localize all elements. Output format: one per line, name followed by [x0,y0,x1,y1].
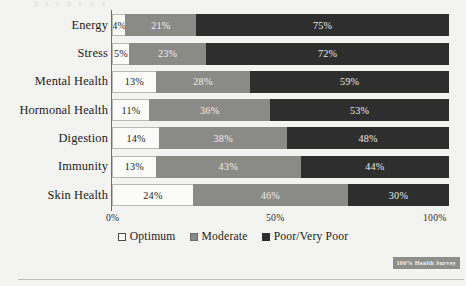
stacked-bar: 24%46%30% [112,184,449,206]
bar-value-label: 11% [122,105,141,116]
bar-value-label: 59% [340,76,359,87]
watermark-badge: 100% Health Survey [393,257,461,269]
legend-item-poor[interactable]: Poor/Very Poor [262,230,349,243]
stacked-bar: 14%38%48% [112,127,449,149]
bar-segment-moderate[interactable]: 36% [149,99,270,121]
category-label-energy: Energy [0,18,112,33]
category-label-hormonal-health: Hormonal Health [0,103,112,118]
bar-value-label: 23% [158,48,177,59]
legend-item-moderate[interactable]: Moderate [190,230,248,243]
chart-row: Immunity13%43%44% [0,153,466,180]
bar-segment-optimum[interactable]: 11% [112,99,149,121]
bar-value-label: 24% [143,190,162,201]
bar-value-label: 43% [219,161,238,172]
legend-item-optimum[interactable]: Optimum [118,230,176,243]
bar-segment-moderate[interactable]: 43% [156,156,301,178]
bar-value-label: 75% [313,20,332,31]
bar-value-label: 36% [200,105,219,116]
bar-value-label: 13% [125,76,144,87]
bar-segment-optimum[interactable]: 24% [112,184,193,206]
category-label-stress: Stress [0,46,112,61]
bar-segment-moderate[interactable]: 28% [156,71,250,93]
bar-value-label: 21% [151,20,170,31]
x-tick-50: 50% [266,212,285,223]
bar-segment-optimum[interactable]: 4% [112,14,125,36]
bar-segment-poor[interactable]: 75% [196,14,449,36]
stacked-bar: 13%28%59% [112,71,449,93]
bar-value-label: 30% [389,190,408,201]
bar-value-label: 5% [114,48,128,59]
legend-swatch-poor-icon [262,233,270,241]
x-axis-ticks: 0% 50% 100% [0,212,466,226]
bar-segment-moderate[interactable]: 46% [193,184,348,206]
stacked-bar-chart: Energy4%21%75%Stress5%23%72%Mental Healt… [0,12,466,212]
chart-row: Mental Health13%28%59% [0,69,466,96]
bottom-divider [18,279,464,280]
x-tick-0: 0% [106,212,119,223]
bar-segment-optimum[interactable]: 14% [112,127,159,149]
stacked-bar: 11%36%53% [112,99,449,121]
legend-swatch-optimum-icon [118,233,126,241]
bar-value-label: 44% [365,161,384,172]
top-cutoff-text: p t y p y g y [0,0,466,7]
chart-row: Digestion14%38%48% [0,125,466,152]
stacked-bar: 4%21%75% [112,14,449,36]
legend-swatch-moderate-icon [190,233,198,241]
bar-segment-moderate[interactable]: 23% [129,43,207,65]
bar-segment-poor[interactable]: 53% [270,99,449,121]
bar-segment-poor[interactable]: 72% [206,43,449,65]
bar-segment-poor[interactable]: 48% [287,127,449,149]
chart-legend: Optimum Moderate Poor/Very Poor [0,230,466,243]
chart-rows: Energy4%21%75%Stress5%23%72%Mental Healt… [0,12,466,212]
bar-segment-poor[interactable]: 59% [250,71,449,93]
chart-row: Energy4%21%75% [0,12,466,39]
x-tick-100: 100% [423,212,447,223]
bar-value-label: 28% [193,76,212,87]
category-label-immunity: Immunity [0,159,112,174]
bar-value-label: 53% [350,105,369,116]
bar-segment-poor[interactable]: 30% [348,184,449,206]
chart-row: Hormonal Health11%36%53% [0,97,466,124]
bar-value-label: 14% [126,133,145,144]
category-label-skin-health: Skin Health [0,188,112,203]
category-label-mental-health: Mental Health [0,74,112,89]
stacked-bar: 13%43%44% [112,156,449,178]
category-label-digestion: Digestion [0,131,112,146]
bar-segment-poor[interactable]: 44% [301,156,449,178]
bar-segment-optimum[interactable]: 13% [112,156,156,178]
legend-label-moderate: Moderate [202,230,248,243]
bar-segment-optimum[interactable]: 13% [112,71,156,93]
bar-segment-moderate[interactable]: 38% [159,127,287,149]
chart-row: Stress5%23%72% [0,40,466,67]
chart-row: Skin Health24%46%30% [0,182,466,209]
bar-value-label: 48% [358,133,377,144]
bar-value-label: 46% [261,190,280,201]
legend-label-optimum: Optimum [130,230,176,243]
bar-segment-optimum[interactable]: 5% [112,43,129,65]
bar-segment-moderate[interactable]: 21% [125,14,196,36]
legend-label-poor: Poor/Very Poor [274,230,349,243]
bar-value-label: 4% [112,20,125,31]
bar-value-label: 72% [318,48,337,59]
stacked-bar: 5%23%72% [112,43,449,65]
bar-value-label: 38% [214,133,233,144]
bar-value-label: 13% [125,161,144,172]
